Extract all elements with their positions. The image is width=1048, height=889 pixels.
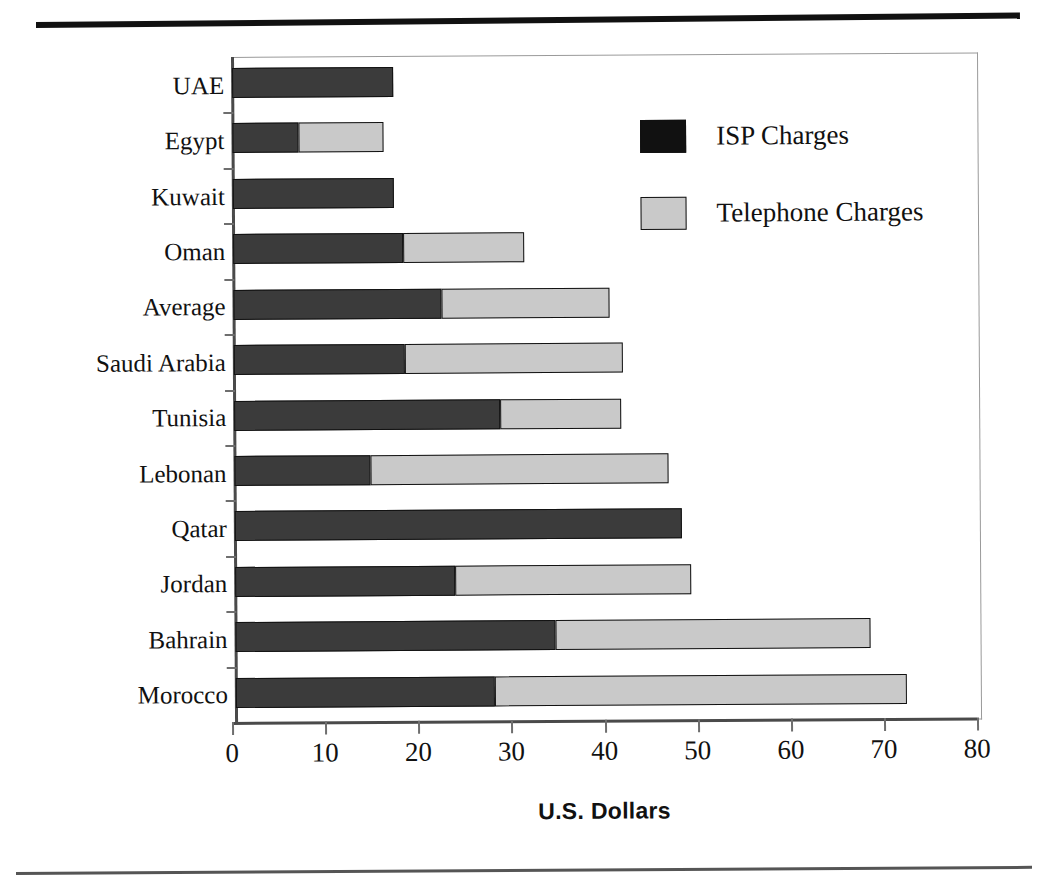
bar-row (236, 662, 981, 722)
y-axis-label-jordan: Jordan (2, 571, 227, 597)
bar-segment-telephone[interactable] (299, 122, 384, 153)
x-axis-tick (604, 720, 606, 733)
legend-label-telephone: Telephone Charges (716, 196, 923, 228)
bar-segment-telephone[interactable] (405, 343, 623, 374)
x-axis-tick-label: 20 (388, 737, 448, 768)
bar-segment-telephone[interactable] (403, 232, 524, 263)
bar-segment-telephone[interactable] (441, 287, 610, 318)
bar-segment-isp[interactable] (234, 344, 406, 375)
x-axis-tick-label: 50 (668, 735, 728, 766)
bar-segment-isp[interactable] (233, 233, 404, 264)
y-axis-label-morocco: Morocco (3, 682, 228, 708)
bar-segment-telephone[interactable] (495, 673, 908, 706)
y-axis-label-egypt: Egypt (0, 128, 225, 154)
bar-segment-isp[interactable] (234, 399, 501, 431)
x-axis-tick-label: 30 (481, 736, 541, 767)
x-axis-tick (977, 717, 979, 730)
bar-row (234, 385, 979, 445)
bar-segment-telephone[interactable] (556, 618, 871, 650)
x-axis-tick (418, 721, 420, 734)
bar-row (234, 440, 979, 500)
x-axis-tick-label: 0 (202, 738, 262, 769)
bar-row (235, 496, 980, 556)
y-axis-label-qatar: Qatar (2, 516, 227, 542)
bar-segment-telephone[interactable] (500, 398, 621, 429)
light-swatch-icon (640, 197, 686, 230)
x-axis-tick (325, 721, 327, 734)
dark-swatch-icon (640, 120, 686, 153)
chart-legend: ISP Charges Telephone Charges (640, 118, 971, 274)
bar-row (232, 52, 977, 112)
x-axis-tick (884, 718, 886, 731)
x-axis-tick-label: 70 (854, 734, 914, 765)
y-axis-label-bahrain: Bahrain (2, 627, 227, 653)
bar-row (233, 274, 978, 334)
bar-segment-isp[interactable] (232, 123, 298, 153)
x-axis-tick-label: 60 (761, 734, 821, 765)
bar-segment-isp[interactable] (235, 565, 455, 596)
bar-segment-isp[interactable] (235, 509, 682, 542)
bar-row (235, 551, 980, 611)
y-axis-label-oman: Oman (0, 239, 225, 265)
x-axis-tick-label: 10 (295, 737, 355, 768)
y-axis-label-tunisia: Tunisia (1, 405, 226, 431)
y-axis-label-saudi-arabia: Saudi Arabia (1, 350, 226, 376)
bar-segment-telephone[interactable] (455, 564, 692, 595)
x-axis-tick (232, 722, 234, 735)
bar-row (234, 330, 979, 390)
legend-item-telephone[interactable]: Telephone Charges (640, 195, 970, 230)
y-axis-label-uae: UAE (0, 73, 224, 99)
y-axis-category-labels: UAEEgyptKuwaitOmanAverageSaudi ArabiaTun… (0, 57, 228, 723)
y-axis-label-average: Average (0, 294, 225, 320)
x-axis-tick (791, 719, 793, 732)
page-top-rule (36, 13, 1020, 28)
x-axis-ticks: 01020304050607080 (232, 717, 977, 762)
x-axis-tick (511, 720, 513, 733)
x-axis-tick (698, 719, 700, 732)
y-axis-label-lebonan: Lebonan (1, 461, 226, 487)
page-bottom-rule (16, 866, 1032, 875)
bar-row (235, 607, 980, 667)
bar-segment-isp[interactable] (234, 455, 370, 486)
legend-label-isp: ISP Charges (716, 120, 849, 152)
bar-segment-isp[interactable] (232, 67, 393, 98)
bar-segment-isp[interactable] (233, 288, 441, 319)
y-axis-label-kuwait: Kuwait (0, 184, 225, 210)
legend-item-isp[interactable]: ISP Charges (640, 118, 970, 153)
x-axis-tick-label: 80 (947, 733, 1007, 764)
bar-segment-telephone[interactable] (370, 453, 668, 485)
bar-segment-isp[interactable] (236, 676, 495, 708)
x-axis-tick-label: 40 (575, 736, 635, 767)
x-axis-title: U.S. Dollars (232, 795, 977, 827)
bar-segment-isp[interactable] (235, 620, 556, 652)
bar-segment-isp[interactable] (233, 178, 394, 209)
